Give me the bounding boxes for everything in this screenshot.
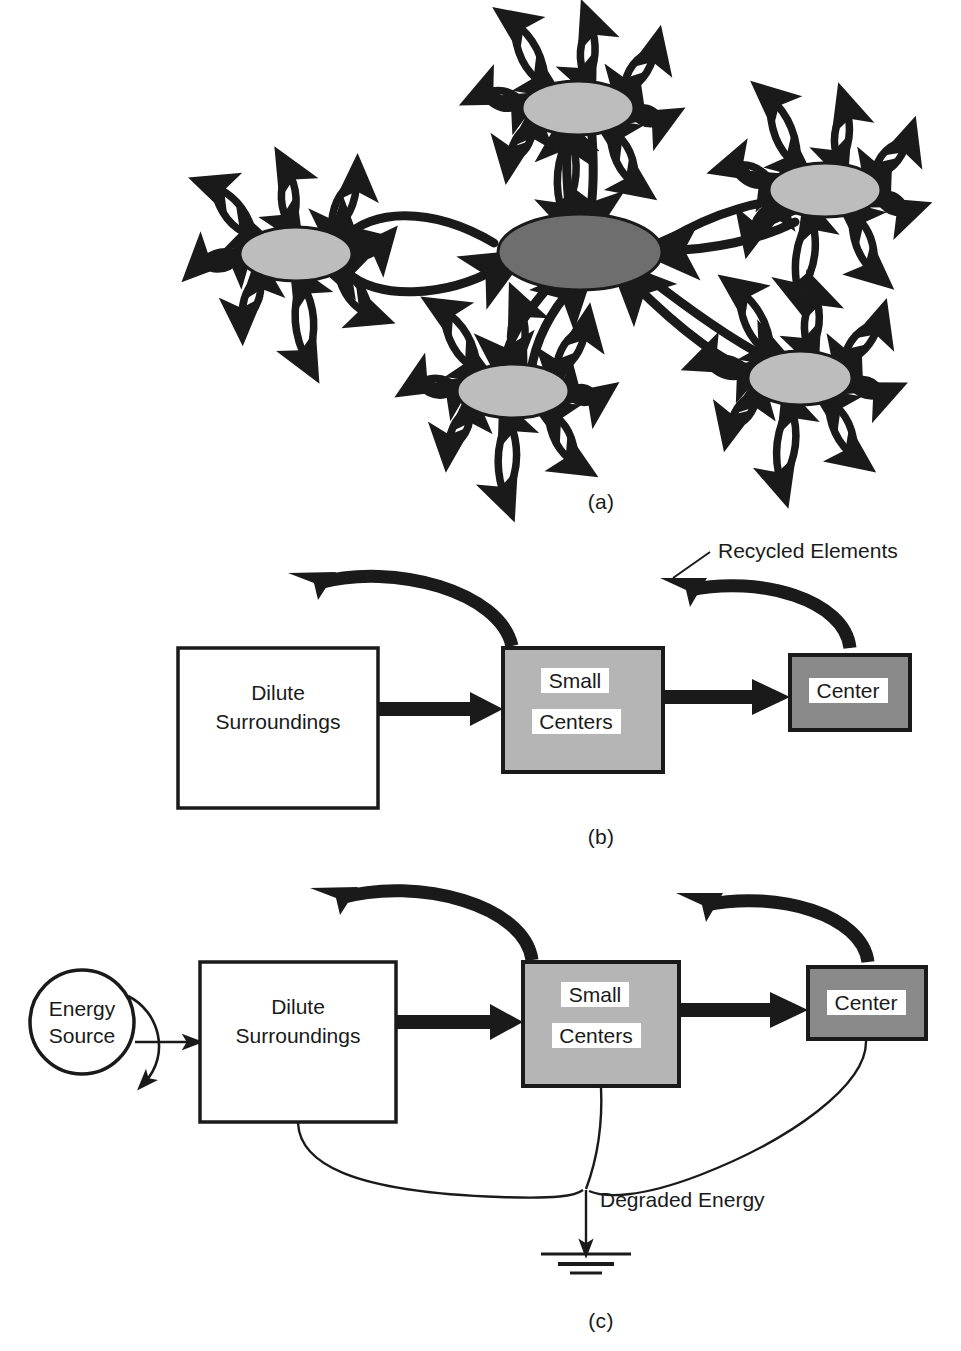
dilute-surroundings-label-line2: Surroundings: [216, 710, 341, 733]
arrow-dilute-to-small: [379, 692, 503, 726]
arrow-small-to-center: [680, 992, 808, 1028]
panel-c-flow-diagram: Energy Source: [0, 860, 961, 1351]
node-top: [522, 81, 634, 135]
energy-source-node: [30, 970, 134, 1074]
panel-a-caption: (a): [541, 490, 661, 514]
ground-symbol: [541, 1254, 631, 1273]
recycle-arc-center-to-small: [690, 586, 850, 648]
exchange-arrow-in: [506, 420, 517, 497]
link-center-left-lower: [347, 268, 498, 292]
node-bottom-right: [748, 351, 852, 405]
link-center-top-right: [590, 136, 593, 216]
loss-path-dilute: [298, 1123, 583, 1198]
center-label: Center: [816, 679, 879, 702]
degraded-energy-label: Degraded Energy: [600, 1188, 765, 1211]
panel-b-flow-diagram: Dilute Surroundings Small Centers Center…: [0, 530, 961, 860]
panel-c-caption: (c): [541, 1309, 661, 1333]
node-left: [240, 227, 352, 281]
center-node: [498, 214, 662, 290]
small-centers-label-line1: Small: [569, 983, 622, 1006]
recycle-arc-small-to-dilute: [340, 891, 532, 960]
energy-source-label-line2: Source: [49, 1024, 116, 1047]
node-right: [769, 163, 881, 217]
small-centers-label-line2: Centers: [559, 1024, 633, 1047]
figure-root: Dilute Surroundings Small Centers Center…: [0, 0, 961, 1351]
node-bottom-left: [457, 364, 569, 418]
panel-c-recycle-arcs: [340, 891, 868, 962]
arrow-dilute-to-small: [397, 1004, 523, 1040]
recycled-elements-leader-line: [673, 552, 710, 578]
recycle-arc-center-to-small: [706, 901, 868, 962]
arrow-small-to-center: [664, 679, 790, 715]
panel-b-annotation: [673, 552, 710, 578]
dilute-surroundings-label-line2: Surroundings: [236, 1024, 361, 1047]
panel-b-caption: (b): [541, 825, 661, 849]
panel-a-network-diagram: [0, 0, 961, 530]
panel-b-recycle-arcs: [318, 576, 850, 648]
recycled-elements-label: Recycled Elements: [718, 539, 898, 562]
recycle-arc-small-to-dilute: [318, 576, 512, 646]
small-centers-label-line2: Centers: [539, 710, 613, 733]
energy-source-label-line1: Energy: [49, 997, 116, 1020]
dilute-surroundings-label-line1: Dilute: [271, 995, 325, 1018]
panel-c-energy-source: Energy Source: [30, 970, 192, 1082]
center-label: Center: [834, 991, 897, 1014]
dilute-surroundings-label-line1: Dilute: [251, 681, 305, 704]
loss-path-small: [586, 1087, 601, 1189]
small-centers-label-line1: Small: [549, 669, 602, 692]
